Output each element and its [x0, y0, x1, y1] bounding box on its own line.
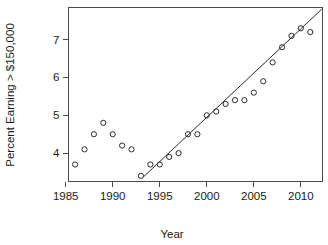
trend-line-group	[144, 9, 322, 176]
data-point: 2005: 5.6	[251, 90, 256, 95]
x-axis-tick-labels: 198519901995200020052010	[53, 190, 314, 202]
y-axis-ticks	[63, 40, 69, 153]
data-point: 1997: 4	[176, 151, 181, 156]
data-point: 1987: 4.1	[82, 147, 87, 152]
x-axis-title: Year	[160, 228, 183, 240]
y-tick-label-6: 6	[53, 71, 59, 83]
x-axis-ticks	[66, 182, 301, 188]
data-point: 1986: 3.7	[72, 162, 77, 167]
data-points-group: 1986: 3.71987: 4.11988: 4.51989: 4.81990…	[72, 26, 312, 179]
plot-canvas: 198519901995200020052010 4567 1986: 3.71…	[0, 0, 328, 245]
data-point: 1996: 3.9	[167, 154, 172, 159]
data-point: 2002: 5.3	[223, 101, 228, 106]
x-tick-label-1990: 1990	[100, 190, 126, 202]
data-point: 1995: 3.7	[157, 162, 162, 167]
data-point: 2004: 5.4	[242, 98, 247, 103]
data-point: 1994: 3.7	[148, 162, 153, 167]
y-tick-label-4: 4	[53, 147, 60, 159]
data-point: 1999: 4.5	[195, 132, 200, 137]
data-point: 2007: 6.4	[270, 60, 275, 65]
x-tick-label-2000: 2000	[194, 190, 220, 202]
data-point: 2003: 5.4	[232, 98, 237, 103]
x-tick-label-1985: 1985	[53, 190, 79, 202]
data-point: 1990: 4.5	[110, 132, 115, 137]
data-point: 2001: 5.1	[214, 109, 219, 114]
y-axis-tick-labels: 4567	[53, 34, 60, 159]
data-point: 2006: 5.9	[261, 79, 266, 84]
fitted-regression-line	[144, 9, 322, 176]
data-point: 1992: 4.1	[129, 147, 134, 152]
plot-frame	[69, 8, 323, 182]
data-point: 1998: 4.5	[185, 132, 190, 137]
x-tick-label-2005: 2005	[241, 190, 267, 202]
data-point: 1989: 4.8	[101, 120, 106, 125]
data-point: 1991: 4.2	[120, 143, 125, 148]
data-point: 1993: 3.4	[138, 173, 143, 178]
scatter-plot-figure: 198519901995200020052010 4567 1986: 3.71…	[0, 0, 328, 245]
x-tick-label-1995: 1995	[147, 190, 173, 202]
y-tick-label-7: 7	[53, 34, 59, 46]
y-tick-label-5: 5	[53, 109, 59, 121]
y-axis-title: Percent Earning > $150,000	[4, 23, 16, 167]
data-point: 2011: 7.2	[308, 29, 313, 34]
x-tick-label-2010: 2010	[288, 190, 314, 202]
data-point: 1988: 4.5	[91, 132, 96, 137]
